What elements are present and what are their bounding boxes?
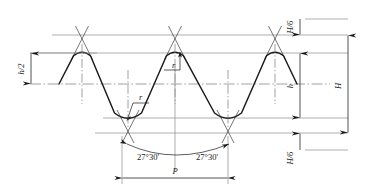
label-h: h [285, 84, 295, 88]
label-H-over-6-bottom: H/6 [285, 151, 295, 166]
label-pitch: P [171, 166, 177, 176]
label-angle-left: 27°30' [137, 152, 159, 162]
thread-profile-path [59, 52, 297, 118]
dimension-h-over-2: h/2 [16, 53, 97, 84]
label-h-over-2: h/2 [16, 63, 26, 75]
label-angle-right: 27°30' [196, 152, 218, 162]
right-dimension-group: H/6 h H H/6 [285, 19, 348, 165]
thread-profile-drawing: h/2 H/6 h H H/6 r [0, 0, 372, 189]
label-r-root: r [139, 92, 143, 102]
drawing-canvas: h/2 H/6 h H H/6 r [0, 0, 372, 189]
dimension-pitch: P [123, 166, 228, 178]
label-H: H [333, 82, 343, 90]
label-H-over-6-top: H/6 [285, 20, 295, 35]
label-r-crest: r [172, 60, 176, 70]
